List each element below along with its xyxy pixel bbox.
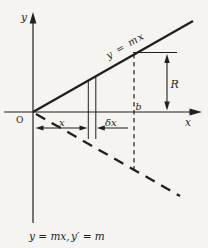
x-interval-label: x (59, 117, 65, 128)
line-y-mx (33, 21, 193, 112)
math-figure: y x O y = mx b R x δx (0, 0, 208, 248)
r-arrowhead-top (164, 54, 169, 63)
delta-x-arrowhead (97, 126, 105, 131)
caption-derivative: y′ = m (70, 230, 105, 242)
x-axis-arrowhead (190, 108, 203, 115)
caption-equation: y = mx, (28, 230, 70, 242)
y-axis-arrowhead (30, 12, 37, 24)
line-y-mx-label: y = mx (103, 30, 146, 61)
y-axis-label: y (20, 11, 28, 23)
delta-x-label: δx (105, 117, 117, 128)
x-axis-label: x (185, 116, 191, 128)
x-interval-arrowhead-left (36, 126, 44, 131)
b-label: b (136, 101, 142, 112)
origin-label: O (16, 115, 23, 125)
r-arrowhead-bottom (164, 102, 169, 111)
x-interval-arrowhead-right (80, 126, 88, 131)
figure-canvas: y x O y = mx b R x δx (0, 0, 208, 248)
r-label: R (170, 78, 179, 91)
